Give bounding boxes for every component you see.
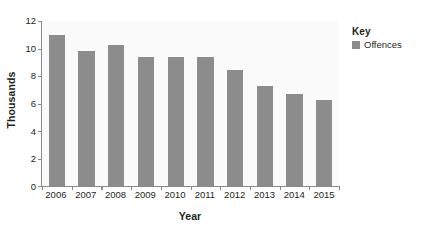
y-axis-tick-label: 12	[25, 16, 36, 26]
y-axis-title: Thousands	[0, 0, 22, 200]
bar[interactable]	[168, 57, 184, 186]
bar[interactable]	[286, 94, 302, 186]
bar-series	[42, 21, 339, 186]
bar-slot	[309, 21, 339, 186]
x-axis-tick-label: 2011	[190, 190, 220, 200]
legend-entries: Offences	[352, 40, 402, 50]
x-axis-title: Year	[41, 210, 339, 222]
plot-area	[41, 21, 339, 187]
x-axis-tick-label: 2014	[279, 190, 309, 200]
legend-title: Key	[352, 26, 402, 37]
x-axis-tick-label: 2012	[220, 190, 250, 200]
x-axis-tick-label: 2015	[309, 190, 339, 200]
x-axis-tick-label: 2008	[101, 190, 131, 200]
bar-slot	[191, 21, 221, 186]
bar-slot	[280, 21, 310, 186]
bar-slot	[72, 21, 102, 186]
y-axis-tick-label: 6	[31, 99, 36, 109]
y-axis-tick-label: 8	[31, 72, 36, 82]
bar-slot	[161, 21, 191, 186]
x-axis-tick-label: 2010	[160, 190, 190, 200]
bar[interactable]	[316, 100, 332, 186]
bar[interactable]	[108, 45, 124, 186]
y-axis-tick-label: 2	[31, 155, 36, 165]
y-axis-tick-label: 4	[31, 127, 36, 137]
bar-slot	[101, 21, 131, 186]
x-axis-tick-labels: 2006200720082009201020112012201320142015	[41, 190, 339, 200]
x-axis-tick-mark	[339, 186, 340, 190]
y-axis-tick-label: 10	[25, 44, 36, 54]
x-axis-tick-label: 2009	[130, 190, 160, 200]
bar-slot	[42, 21, 72, 186]
y-axis-tick-labels: 024681012	[20, 21, 36, 187]
bar[interactable]	[49, 35, 65, 186]
x-axis-tick-label: 2006	[41, 190, 71, 200]
bar[interactable]	[78, 51, 94, 186]
y-axis-tick-label: 0	[31, 182, 36, 192]
y-axis-title-text: Thousands	[5, 72, 17, 129]
x-axis-tick-label: 2013	[250, 190, 280, 200]
bar[interactable]	[197, 57, 213, 186]
bar-chart: Thousands 024681012 20062007200820092010…	[0, 0, 430, 237]
legend-label: Offences	[364, 40, 402, 50]
bar-slot	[250, 21, 280, 186]
bar-slot	[220, 21, 250, 186]
bar[interactable]	[227, 70, 243, 186]
bar[interactable]	[257, 86, 273, 186]
legend-entry[interactable]: Offences	[352, 40, 402, 50]
bar-slot	[131, 21, 161, 186]
bar[interactable]	[138, 57, 154, 186]
legend: Key Offences	[352, 26, 402, 50]
legend-swatch-icon	[352, 41, 360, 49]
y-axis-tick-mark	[38, 186, 42, 187]
x-axis-tick-label: 2007	[71, 190, 101, 200]
